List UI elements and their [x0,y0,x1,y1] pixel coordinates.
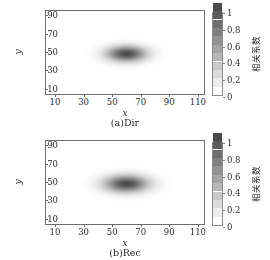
colorbar-band [213,3,222,11]
colorbar-band [213,208,222,216]
x-tick-label: 10 [50,228,61,237]
colorbar-band [213,200,222,208]
colorbar-tick-label: 0.8 [227,26,241,35]
colorbar-tick-mark [223,30,225,31]
colorbar-tick-label: 0.8 [227,156,241,165]
colorbar-tick-mark [223,193,225,194]
colorbar-tick-mark [223,97,225,98]
colorbar-tick-label: 0.2 [227,206,241,215]
y-tick-label: 30 [47,66,58,75]
x-tick-label: 90 [164,98,175,107]
y-tick-label: 90 [47,11,58,20]
colorbar-tick-mark [223,210,225,211]
x-tick-label: 70 [135,228,146,237]
colorbar-band [213,133,222,141]
colorbar-band [213,175,222,183]
y-tick-label: 10 [47,84,58,93]
colorbar-tick-label: 0 [227,93,232,102]
colorbar-band [213,141,222,149]
panel-caption-a: (a)Dir [111,118,139,128]
colorbar-band [213,62,222,70]
colorbar-tick-label: 0 [227,223,232,232]
x-tick-label: 50 [107,228,118,237]
colorbar-tick-mark [223,63,225,64]
colorbar-tick-label: 0.6 [227,172,241,181]
colorbar-a: 10.80.60.40.20 相关系数 [212,12,270,98]
y-tick-label: 50 [47,48,58,57]
x-tick-label: 30 [78,228,89,237]
colorbar-band [213,87,222,95]
x-tick-label: 50 [107,98,118,107]
colorbar-band [213,28,222,36]
colorbar-band [213,183,222,191]
heatmap-canvas-b [46,141,204,224]
colorbar-tick-label: 0.4 [227,59,241,68]
colorbar-band [213,166,222,174]
plot-area-b [45,140,205,225]
y-tick-label: 70 [47,160,58,169]
y-tick-label: 30 [47,196,58,205]
colorbar-band [213,20,222,28]
colorbar-band [213,78,222,86]
colorbar-band [213,36,222,44]
colorbar-band [213,158,222,166]
x-tick-label: 110 [190,228,206,237]
heatmap-canvas-a [46,11,204,94]
colorbar-tick-mark [223,177,225,178]
x-tick-label: 30 [78,98,89,107]
colorbar-gradient-a [212,12,223,96]
y-axis-title-a: y [14,49,23,54]
colorbar-gradient-b [212,142,223,226]
colorbar-band [213,217,222,225]
colorbar-band [213,150,222,158]
figure-panel-b: 10305070901101030507090 x y (b)Rec 10.80… [0,130,270,260]
colorbar-tick-mark [223,227,225,228]
colorbar-tick-mark [223,143,225,144]
colorbar-tick-label: 0.6 [227,42,241,51]
colorbar-tick-mark [223,47,225,48]
colorbar-tick-label: 1 [227,139,232,148]
x-tick-label: 110 [190,98,206,107]
colorbar-tick-label: 1 [227,9,232,18]
colorbar-tick-mark [223,80,225,81]
colorbar-band [213,11,222,19]
y-tick-label: 10 [47,214,58,223]
colorbar-tick-label: 0.2 [227,76,241,85]
colorbar-tick-mark [223,160,225,161]
panel-caption-b: (b)Rec [109,248,141,258]
colorbar-tick-mark [223,13,225,14]
colorbar-band [213,192,222,200]
y-tick-label: 50 [47,178,58,187]
colorbar-band [213,53,222,61]
colorbar-title-b: 相关系数 [252,166,261,202]
colorbar-title-a: 相关系数 [252,36,261,72]
x-tick-label: 10 [50,98,61,107]
y-tick-label: 70 [47,30,58,39]
figure-panel-a: 10305070901101030507090 x y (a)Dir 10.80… [0,0,270,130]
plot-area-a [45,10,205,95]
y-axis-title-b: y [14,179,23,184]
colorbar-tick-label: 0.4 [227,189,241,198]
colorbar-band [213,70,222,78]
x-tick-label: 90 [164,228,175,237]
colorbar-band [213,45,222,53]
x-tick-label: 70 [135,98,146,107]
colorbar-b: 10.80.60.40.20 相关系数 [212,142,270,228]
y-tick-label: 90 [47,141,58,150]
